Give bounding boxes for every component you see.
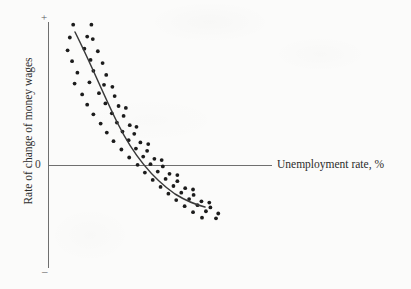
data-point — [76, 71, 80, 75]
data-point — [156, 170, 160, 174]
data-point — [99, 122, 103, 126]
data-point-group — [66, 23, 220, 220]
data-point — [101, 61, 105, 65]
data-point — [207, 201, 211, 205]
data-point — [135, 125, 139, 129]
data-point — [102, 83, 106, 87]
data-point — [111, 85, 115, 89]
phillips-curve-figure: + 0 – Rate of change of money wages Unem… — [0, 0, 411, 289]
data-point — [146, 142, 150, 146]
data-point — [91, 112, 95, 116]
data-point — [113, 94, 117, 98]
fitted-curve — [75, 32, 205, 207]
data-point — [149, 162, 153, 166]
data-point — [145, 149, 149, 153]
data-point — [216, 212, 220, 216]
data-point — [70, 59, 74, 63]
data-point — [71, 23, 75, 27]
y-axis-negative-marker: – — [42, 266, 48, 277]
data-point — [80, 93, 84, 97]
data-point — [214, 216, 218, 220]
data-point — [167, 192, 171, 196]
data-point — [73, 82, 77, 86]
data-point — [66, 48, 70, 52]
data-point — [168, 172, 172, 176]
data-point — [96, 49, 100, 53]
data-point — [88, 80, 92, 84]
data-point — [179, 191, 183, 195]
data-point — [68, 36, 72, 40]
data-point — [164, 177, 168, 181]
data-point — [174, 198, 178, 202]
data-point — [160, 158, 164, 162]
data-point — [119, 148, 123, 152]
data-point — [159, 185, 163, 189]
data-point — [183, 186, 187, 190]
data-point — [204, 209, 208, 213]
data-point — [85, 35, 89, 39]
data-point — [172, 184, 176, 188]
data-point — [141, 155, 145, 159]
data-point — [117, 104, 121, 108]
data-point — [175, 179, 179, 183]
data-point — [124, 106, 128, 110]
data-point — [136, 163, 140, 167]
data-point — [209, 206, 213, 210]
data-point — [134, 147, 138, 151]
data-point — [153, 157, 157, 161]
y-axis-zero-marker: 0 — [35, 159, 41, 171]
data-point — [104, 73, 108, 77]
data-point — [97, 91, 101, 95]
data-point — [143, 171, 147, 175]
data-point — [91, 37, 95, 41]
scatter-plot-canvas — [0, 0, 411, 289]
data-point — [128, 123, 132, 127]
data-point — [200, 199, 204, 203]
data-point — [122, 114, 126, 118]
data-point — [183, 204, 187, 208]
data-point — [112, 139, 116, 143]
data-point — [90, 23, 94, 27]
y-axis-positive-marker: + — [41, 12, 47, 23]
data-point — [132, 132, 136, 136]
x-axis-title: Unemployment rate, % — [277, 158, 384, 170]
data-point — [104, 102, 108, 106]
y-axis-title: Rate of change of money wages — [22, 16, 34, 246]
data-point — [175, 173, 179, 177]
data-point — [139, 141, 143, 145]
data-point — [105, 131, 109, 135]
data-point — [127, 156, 131, 160]
data-point — [85, 103, 89, 107]
data-point — [191, 210, 195, 214]
data-point — [192, 193, 196, 197]
data-point — [161, 165, 165, 169]
data-point — [200, 216, 204, 220]
data-point — [191, 188, 195, 192]
data-point — [151, 178, 155, 182]
